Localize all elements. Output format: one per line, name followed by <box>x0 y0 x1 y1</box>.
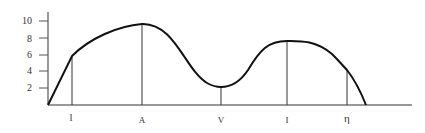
y-tick-label-2: 2 <box>10 83 32 93</box>
x-label-i: I <box>277 115 297 126</box>
data-curve <box>48 24 366 105</box>
x-label-l: l <box>61 112 81 123</box>
y-ticks <box>39 21 48 88</box>
y-tick-label-4: 4 <box>10 66 32 76</box>
x-label-a: A <box>132 115 152 126</box>
y-tick-label-6: 6 <box>10 50 32 60</box>
y-tick-label-8: 8 <box>10 34 32 44</box>
x-label-eta: η <box>337 113 357 124</box>
drop-lines <box>72 24 347 105</box>
x-label-v: V <box>211 115 231 126</box>
y-tick-label-10: 10 <box>10 16 32 26</box>
